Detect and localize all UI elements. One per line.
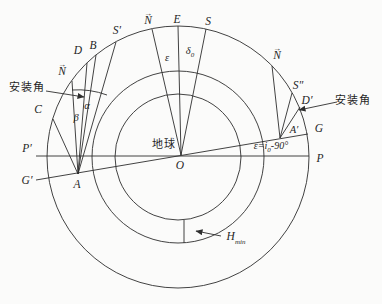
outer-circle	[47, 26, 309, 288]
install-angle-label-left: 安装角	[9, 82, 45, 93]
line-o-e	[178, 26, 181, 155]
label-n-vector-top: → N	[144, 12, 152, 24]
earth-circle	[115, 94, 241, 220]
label-d: D	[74, 45, 82, 57]
label-n-left: N	[58, 68, 66, 75]
label-b: B	[89, 40, 96, 52]
label-c: C	[34, 104, 42, 116]
label-e: E	[173, 14, 180, 26]
orbit-circle	[92, 71, 264, 243]
line-o-n	[152, 29, 181, 155]
label-alpha: α	[84, 101, 90, 112]
label-epsilon-formula: ε=i0-90°	[254, 141, 288, 151]
label-earth: 地球	[152, 139, 176, 150]
label-s-double-prime: S″	[293, 80, 304, 92]
label-h-min: Hmin	[227, 231, 246, 243]
line-a-c	[53, 119, 78, 174]
label-epsilon: ε	[165, 53, 169, 64]
line-aprime-n	[272, 66, 280, 138]
label-d-prime: D′	[302, 95, 313, 107]
install-angle-label-right: 安装角	[335, 95, 371, 106]
label-beta: β	[73, 113, 78, 124]
label-s-prime: S′	[113, 25, 121, 37]
label-delta0: δ0	[186, 46, 194, 57]
label-a-prime: A′	[290, 125, 299, 136]
install-angle-arrow-left	[46, 91, 84, 97]
label-p: P	[316, 153, 323, 165]
label-a: A	[73, 179, 80, 191]
label-n-vector-right: → N	[273, 47, 281, 59]
label-s: S	[205, 16, 211, 28]
label-p-prime: P′	[22, 143, 32, 155]
figure-canvas: 安装角 C → N D B S′ → N E S ε δ0 α β 地球 O P…	[0, 0, 382, 304]
label-n-right: N	[273, 52, 281, 59]
label-g: G	[315, 123, 323, 135]
label-g-prime: G′	[22, 175, 33, 187]
label-n-top: N	[144, 17, 152, 24]
label-o: O	[176, 160, 184, 172]
label-n-vector-left: → N	[58, 63, 66, 75]
